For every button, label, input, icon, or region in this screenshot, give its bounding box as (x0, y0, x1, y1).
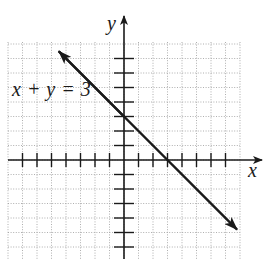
equation-label: x + y = 3 (12, 78, 91, 101)
x-axis-label: x (248, 159, 257, 182)
y-axis-label: y (107, 12, 116, 35)
graph-figure: x + y = 3 y x (0, 0, 265, 259)
coordinate-plane (0, 0, 265, 259)
